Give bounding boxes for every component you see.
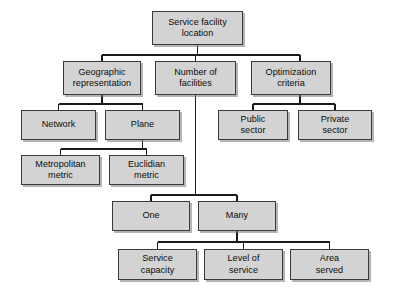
node-service-capacity[interactable]: Service capacity xyxy=(118,249,197,280)
node-label: Network xyxy=(42,119,76,130)
node-label: Service capacity xyxy=(141,253,175,276)
node-network[interactable]: Network xyxy=(21,110,96,140)
node-label: Number of facilities xyxy=(174,67,217,90)
node-label: Geographic representation xyxy=(73,67,131,90)
node-plane[interactable]: Plane xyxy=(105,110,180,140)
node-many[interactable]: Many xyxy=(198,201,276,231)
node-metropolitan-metric[interactable]: Metropolitan metric xyxy=(21,155,100,185)
node-optimization-criteria[interactable]: Optimization criteria xyxy=(251,61,331,95)
node-level-of-service[interactable]: Level of service xyxy=(204,249,283,280)
node-label: Many xyxy=(226,210,248,221)
node-label: Public sector xyxy=(241,114,266,137)
node-label: Private sector xyxy=(321,114,349,137)
node-geographic-representation[interactable]: Geographic representation xyxy=(63,61,141,95)
node-area-served[interactable]: Area served xyxy=(290,249,369,280)
node-service-facility-location[interactable]: Service facility location xyxy=(152,11,243,45)
node-euclidian-metric[interactable]: Euclidian metric xyxy=(109,155,184,185)
node-label: Level of service xyxy=(227,253,259,276)
node-label: Optimization criteria xyxy=(266,67,317,90)
service-facility-location-diagram: Service facility location Geographic rep… xyxy=(0,0,393,297)
node-label: Plane xyxy=(131,119,154,130)
node-label: One xyxy=(142,210,159,221)
node-public-sector[interactable]: Public sector xyxy=(218,110,288,140)
node-one[interactable]: One xyxy=(112,201,190,231)
node-label: Area served xyxy=(316,253,343,276)
node-number-of-facilities[interactable]: Number of facilities xyxy=(155,61,236,95)
node-label: Service facility location xyxy=(168,17,226,40)
node-label: Metropolitan metric xyxy=(35,159,85,182)
node-private-sector[interactable]: Private sector xyxy=(298,110,372,140)
node-label: Euclidian metric xyxy=(128,159,165,182)
